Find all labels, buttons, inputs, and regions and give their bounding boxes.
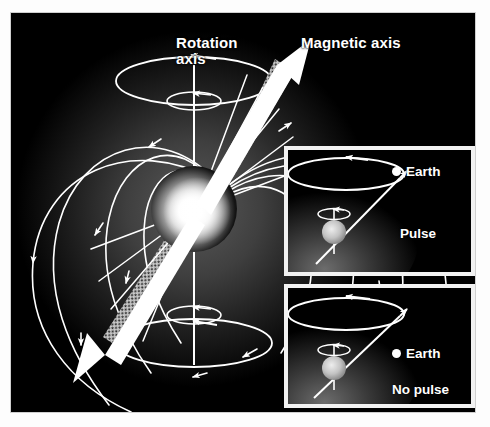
pulsar-figure: Rotation axis Magnetic axis — [0, 0, 490, 427]
earth-dot-icon — [392, 167, 401, 176]
inset-earth-label: Earth — [406, 164, 441, 179]
inset-earth-label: Earth — [406, 346, 441, 361]
no-pulse-inset: Earth No pulse — [284, 284, 475, 408]
inset-state-label-pulse: Pulse — [400, 226, 436, 241]
inset-neutron-star — [322, 356, 346, 380]
earth-dot-icon — [392, 349, 401, 358]
pulse-inset-svg — [288, 150, 471, 272]
pulse-inset: Earth Pulse — [284, 146, 475, 276]
label-magnetic-axis: Magnetic axis — [301, 35, 401, 51]
label-rotation-axis: Rotation axis — [176, 35, 238, 67]
inset-neutron-star — [322, 220, 346, 244]
inset-state-label-no-pulse: No pulse — [392, 382, 449, 397]
